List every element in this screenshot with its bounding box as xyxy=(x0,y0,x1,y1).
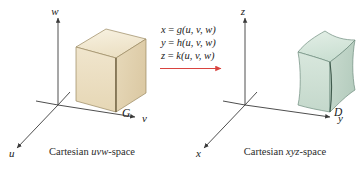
solid-region-G xyxy=(76,29,146,112)
transformation-block: x = g(u, v, w) y = h(u, v, w) z = k(u, v… xyxy=(160,24,221,69)
v-axis-label: v xyxy=(142,112,147,124)
left-caption: Cartesian uvw-space xyxy=(49,146,135,157)
equation-y: y = h(u, v, w) xyxy=(160,37,216,49)
equation-x-eq: = xyxy=(166,24,177,35)
solid-region-D xyxy=(298,31,355,112)
v-axis-negative-stub xyxy=(36,101,58,105)
left-panel-uvw-space: w v u G Cartesian uvw-space xyxy=(9,5,147,159)
x-axis-label: x xyxy=(195,147,201,159)
region-label-G: G xyxy=(122,107,131,119)
u-axis-negative-stub xyxy=(58,92,70,105)
transformation-figure: w v u G Cartesian uvw-space x = g(u, v, … xyxy=(0,0,364,171)
equation-z-args: (u, v, w) xyxy=(181,50,215,62)
equation-x: x = g(u, v, w) xyxy=(160,24,216,36)
figure-canvas: w v u G Cartesian uvw-space x = g(u, v, … xyxy=(0,0,364,171)
right-caption-space: xyz xyxy=(285,146,299,157)
right-panel-xyz-space: z y x D Cartesian xyz-space xyxy=(195,5,355,159)
y-axis-negative-stub xyxy=(223,101,245,105)
right-caption-prefix: Cartesian xyxy=(244,146,286,157)
w-axis-label: w xyxy=(51,5,59,17)
left-caption-space: uvw xyxy=(91,146,108,157)
u-axis-label: u xyxy=(9,147,15,159)
equation-y-eq: = xyxy=(166,37,177,48)
z-axis-label: z xyxy=(240,5,246,17)
x-axis-line xyxy=(204,105,245,148)
right-caption-suffix: -space xyxy=(299,146,326,157)
equation-y-args: (u, v, w) xyxy=(182,37,216,49)
curved-box-front-face xyxy=(298,52,330,112)
x-axis-negative-stub xyxy=(245,92,257,105)
left-caption-suffix: -space xyxy=(108,146,135,157)
u-axis-line xyxy=(17,105,58,148)
equation-x-args: (u, v, w) xyxy=(182,24,216,36)
equation-z: z = k(u, v, w) xyxy=(160,50,215,62)
right-caption: Cartesian xyz-space xyxy=(244,146,327,157)
box-front-face xyxy=(76,47,116,112)
equation-z-eq: = xyxy=(165,50,176,61)
left-caption-prefix: Cartesian xyxy=(49,146,91,157)
region-label-D: D xyxy=(333,106,343,118)
